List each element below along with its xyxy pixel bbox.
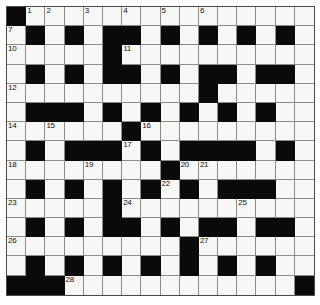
letter-cell[interactable] xyxy=(218,276,237,295)
letter-cell[interactable] xyxy=(276,180,295,199)
letter-cell[interactable] xyxy=(161,45,180,64)
letter-cell[interactable] xyxy=(218,122,237,141)
letter-cell[interactable] xyxy=(65,45,84,64)
letter-cell[interactable] xyxy=(103,7,122,26)
letter-cell[interactable] xyxy=(7,218,26,237)
letter-cell[interactable] xyxy=(237,276,256,295)
letter-cell[interactable] xyxy=(26,45,45,64)
letter-cell[interactable] xyxy=(161,199,180,218)
letter-cell[interactable] xyxy=(218,161,237,180)
letter-cell[interactable] xyxy=(180,218,199,237)
letter-cell[interactable] xyxy=(65,199,84,218)
letter-cell[interactable] xyxy=(141,218,160,237)
letter-cell[interactable] xyxy=(295,237,314,256)
letter-cell[interactable] xyxy=(237,65,256,84)
letter-cell[interactable] xyxy=(84,276,103,295)
letter-cell[interactable]: 17 xyxy=(122,141,141,160)
letter-cell[interactable] xyxy=(237,84,256,103)
letter-cell[interactable] xyxy=(45,65,64,84)
letter-cell[interactable] xyxy=(199,199,218,218)
letter-cell[interactable]: 7 xyxy=(7,26,26,45)
letter-cell[interactable] xyxy=(26,199,45,218)
letter-cell[interactable] xyxy=(276,7,295,26)
letter-cell[interactable] xyxy=(26,122,45,141)
letter-cell[interactable] xyxy=(161,84,180,103)
letter-cell[interactable] xyxy=(45,26,64,45)
letter-cell[interactable] xyxy=(122,276,141,295)
letter-cell[interactable] xyxy=(45,256,64,275)
letter-cell[interactable] xyxy=(103,237,122,256)
letter-cell[interactable] xyxy=(295,122,314,141)
letter-cell[interactable] xyxy=(161,141,180,160)
letter-cell[interactable] xyxy=(256,161,275,180)
letter-cell[interactable] xyxy=(295,199,314,218)
letter-cell[interactable]: 18 xyxy=(7,161,26,180)
letter-cell[interactable] xyxy=(276,84,295,103)
letter-cell[interactable]: 1 xyxy=(26,7,45,26)
letter-cell[interactable] xyxy=(122,84,141,103)
letter-cell[interactable] xyxy=(256,7,275,26)
letter-cell[interactable] xyxy=(161,276,180,295)
letter-cell[interactable] xyxy=(237,7,256,26)
letter-cell[interactable] xyxy=(276,103,295,122)
letter-cell[interactable] xyxy=(84,103,103,122)
letter-cell[interactable] xyxy=(237,218,256,237)
letter-cell[interactable] xyxy=(141,199,160,218)
letter-cell[interactable] xyxy=(161,122,180,141)
letter-cell[interactable] xyxy=(237,45,256,64)
crossword-grid[interactable]: 1234567101112141516171819202122232425262… xyxy=(6,6,315,296)
letter-cell[interactable] xyxy=(7,65,26,84)
letter-cell[interactable] xyxy=(218,45,237,64)
letter-cell[interactable]: 6 xyxy=(199,7,218,26)
letter-cell[interactable]: 22 xyxy=(161,180,180,199)
letter-cell[interactable] xyxy=(141,7,160,26)
letter-cell[interactable] xyxy=(199,103,218,122)
letter-cell[interactable] xyxy=(103,122,122,141)
letter-cell[interactable] xyxy=(84,45,103,64)
letter-cell[interactable]: 20 xyxy=(180,161,199,180)
letter-cell[interactable] xyxy=(180,7,199,26)
letter-cell[interactable] xyxy=(103,276,122,295)
letter-cell[interactable] xyxy=(84,122,103,141)
letter-cell[interactable] xyxy=(141,26,160,45)
letter-cell[interactable] xyxy=(180,26,199,45)
letter-cell[interactable]: 15 xyxy=(45,122,64,141)
letter-cell[interactable] xyxy=(295,161,314,180)
letter-cell[interactable] xyxy=(45,161,64,180)
letter-cell[interactable] xyxy=(276,45,295,64)
letter-cell[interactable] xyxy=(141,84,160,103)
letter-cell[interactable] xyxy=(295,218,314,237)
letter-cell[interactable] xyxy=(237,103,256,122)
letter-cell[interactable] xyxy=(161,103,180,122)
letter-cell[interactable] xyxy=(295,103,314,122)
letter-cell[interactable] xyxy=(218,26,237,45)
letter-cell[interactable] xyxy=(141,45,160,64)
letter-cell[interactable] xyxy=(256,199,275,218)
letter-cell[interactable] xyxy=(84,218,103,237)
letter-cell[interactable] xyxy=(237,161,256,180)
letter-cell[interactable]: 2 xyxy=(45,7,64,26)
letter-cell[interactable] xyxy=(122,180,141,199)
letter-cell[interactable] xyxy=(84,199,103,218)
letter-cell[interactable] xyxy=(276,256,295,275)
letter-cell[interactable] xyxy=(65,7,84,26)
letter-cell[interactable]: 19 xyxy=(84,161,103,180)
letter-cell[interactable] xyxy=(276,276,295,295)
letter-cell[interactable] xyxy=(84,256,103,275)
letter-cell[interactable] xyxy=(199,122,218,141)
letter-cell[interactable] xyxy=(26,237,45,256)
letter-cell[interactable]: 14 xyxy=(7,122,26,141)
letter-cell[interactable] xyxy=(26,161,45,180)
letter-cell[interactable] xyxy=(276,122,295,141)
letter-cell[interactable] xyxy=(199,45,218,64)
letter-cell[interactable] xyxy=(141,161,160,180)
letter-cell[interactable] xyxy=(276,161,295,180)
letter-cell[interactable] xyxy=(218,7,237,26)
letter-cell[interactable] xyxy=(141,65,160,84)
letter-cell[interactable] xyxy=(218,199,237,218)
letter-cell[interactable] xyxy=(84,237,103,256)
letter-cell[interactable]: 28 xyxy=(65,276,84,295)
letter-cell[interactable] xyxy=(141,237,160,256)
letter-cell[interactable]: 5 xyxy=(161,7,180,26)
letter-cell[interactable] xyxy=(180,122,199,141)
